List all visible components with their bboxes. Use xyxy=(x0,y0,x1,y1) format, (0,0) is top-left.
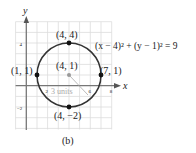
tick-x-8: 8 xyxy=(110,89,113,94)
circle-graph: y x 4 −2 2 6 8 (4, 1) 3 units (4, 4) (1,… xyxy=(0,0,196,153)
center-point xyxy=(67,73,71,77)
point-top-label: (4, 4) xyxy=(56,29,78,41)
y-axis-label: y xyxy=(22,5,28,16)
point-right-label: (7, 1) xyxy=(100,65,122,77)
equation-label: (x − 4)² + (y − 1)² = 9 xyxy=(95,41,178,52)
tick-x-2: 2 xyxy=(46,89,49,94)
radius-label: 3 units xyxy=(51,87,73,96)
figure-caption: (b) xyxy=(62,135,74,147)
point-left xyxy=(35,73,40,78)
center-label: (4, 1) xyxy=(56,60,78,72)
tick-y-4: 4 xyxy=(20,42,23,47)
point-bottom xyxy=(67,105,72,110)
tick-x-6: 6 xyxy=(89,89,92,94)
tick-y-neg2: −2 xyxy=(17,106,23,111)
x-axis-label: x xyxy=(122,80,128,91)
point-top xyxy=(67,41,72,46)
point-left-label: (1, 1) xyxy=(11,65,33,77)
y-axis-arrow-icon xyxy=(24,16,29,23)
point-bottom-label: (4, −2) xyxy=(54,110,81,122)
x-axis-arrow-icon xyxy=(114,83,121,88)
